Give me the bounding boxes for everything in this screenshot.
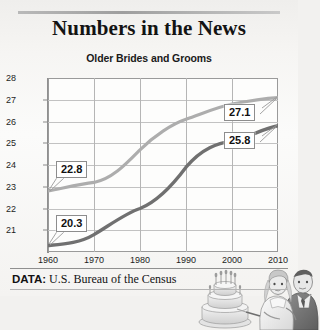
y-tick-21: 21 <box>0 225 16 235</box>
y-tick-27: 27 <box>0 95 16 105</box>
x-tick-1970: 1970 <box>74 255 114 265</box>
x-tick-2010: 2010 <box>258 255 298 265</box>
y-tick-23: 23 <box>0 182 16 192</box>
x-tick-1990: 1990 <box>166 255 206 265</box>
x-tick-1980: 1980 <box>120 255 160 265</box>
callout-grooms-end: 27.1 <box>224 104 255 121</box>
chart-subtitle: Older Brides and Grooms <box>0 52 298 64</box>
data-source-value: U.S. Bureau of the Census <box>49 272 176 286</box>
y-tick-28: 28 <box>0 73 16 83</box>
data-source-note: DATA: U.S. Bureau of the Census <box>12 272 176 287</box>
footer-rule-bottom <box>10 289 288 290</box>
callout-brides-end: 25.8 <box>224 132 255 149</box>
callout-brides-start: 20.3 <box>56 215 87 232</box>
header-rule <box>18 11 280 14</box>
footer-rule-top <box>10 268 288 269</box>
wedding-cake-icon <box>199 270 251 328</box>
y-tick-26: 26 <box>0 117 16 127</box>
y-tick-24: 24 <box>0 160 16 170</box>
page-title: Numbers in the News <box>0 16 298 41</box>
y-tick-22: 22 <box>0 204 16 214</box>
callout-grooms-start: 22.8 <box>56 161 87 178</box>
x-tick-2000: 2000 <box>212 255 252 265</box>
x-tick-1960: 1960 <box>28 255 68 265</box>
data-source-label: DATA: <box>12 273 46 285</box>
bride-and-groom-illustration <box>198 264 320 330</box>
y-tick-25: 25 <box>0 138 16 148</box>
